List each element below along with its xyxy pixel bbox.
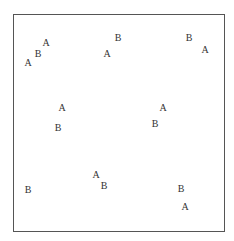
point-label-b: B [55,123,62,133]
point-label-a: A [42,38,49,48]
point-label-a: A [24,58,31,68]
point-label-b: B [25,185,32,195]
point-label-a: A [159,103,166,113]
point-label-b: B [101,181,108,191]
point-label-b: B [35,49,42,59]
point-label-a: A [103,49,110,59]
point-label-b: B [152,119,159,129]
point-label-b: B [115,33,122,43]
point-label-a: A [201,45,208,55]
point-label-b: B [186,33,193,43]
point-label-b: B [178,184,185,194]
point-label-a: A [92,170,99,180]
point-label-a: A [181,202,188,212]
point-label-a: A [58,103,65,113]
